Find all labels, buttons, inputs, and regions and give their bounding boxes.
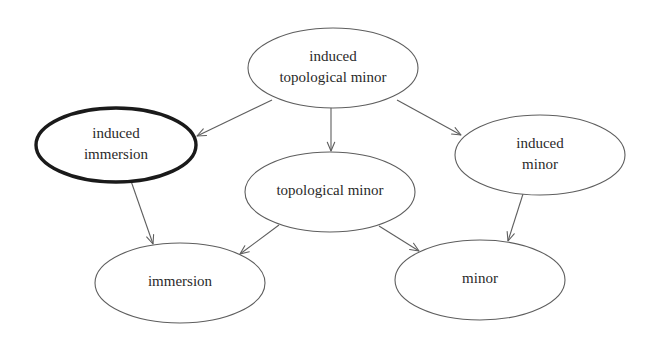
arrowhead-icon	[452, 128, 461, 135]
node-label-topological-minor: topological minor	[276, 182, 383, 198]
edge-topological-minor-to-immersion	[240, 225, 279, 254]
arrowhead-icon	[410, 243, 419, 251]
edge-shaft	[397, 100, 461, 135]
node-label-induced-minor: minor	[522, 156, 558, 172]
node-induced-topological-minor[interactable]: inducedtopological minor	[248, 28, 418, 108]
node-label-induced-topological-minor: induced	[309, 48, 357, 64]
node-immersion[interactable]: immersion	[95, 243, 265, 323]
edge-induced-topological-minor-to-topological-minor	[327, 108, 334, 151]
node-label-induced-topological-minor: topological minor	[279, 69, 386, 85]
node-label-minor: minor	[462, 270, 498, 286]
edge-induced-topological-minor-to-induced-minor	[397, 100, 461, 135]
node-topological-minor[interactable]: topological minor	[245, 152, 415, 232]
edge-shaft	[379, 226, 419, 251]
edge-shaft	[197, 100, 272, 136]
edge-shaft	[131, 181, 153, 244]
node-induced-immersion[interactable]: inducedimmersion	[36, 108, 196, 182]
edge-shaft	[240, 225, 279, 254]
node-label-immersion: immersion	[148, 273, 213, 289]
edge-induced-immersion-to-immersion	[131, 181, 154, 244]
node-label-induced-minor: induced	[516, 135, 564, 151]
node-ellipse-induced-minor[interactable]	[455, 115, 625, 195]
node-label-induced-immersion: immersion	[84, 146, 149, 162]
node-ellipse-induced-topological-minor[interactable]	[248, 28, 418, 108]
node-induced-minor[interactable]: inducedminor	[455, 115, 625, 195]
node-minor[interactable]: minor	[395, 240, 565, 320]
node-label-induced-immersion: induced	[92, 125, 140, 141]
edge-shaft	[508, 194, 523, 241]
edge-induced-minor-to-minor	[507, 194, 523, 241]
node-ellipse-induced-immersion[interactable]	[36, 108, 196, 182]
edge-induced-topological-minor-to-induced-immersion	[197, 100, 272, 136]
graph-hierarchy-diagram: inducedtopological minorinducedimmersion…	[0, 0, 653, 338]
edge-topological-minor-to-minor	[379, 226, 419, 251]
nodes-layer: inducedtopological minorinducedimmersion…	[36, 28, 625, 323]
diagram-canvas: inducedtopological minorinducedimmersion…	[0, 0, 653, 338]
